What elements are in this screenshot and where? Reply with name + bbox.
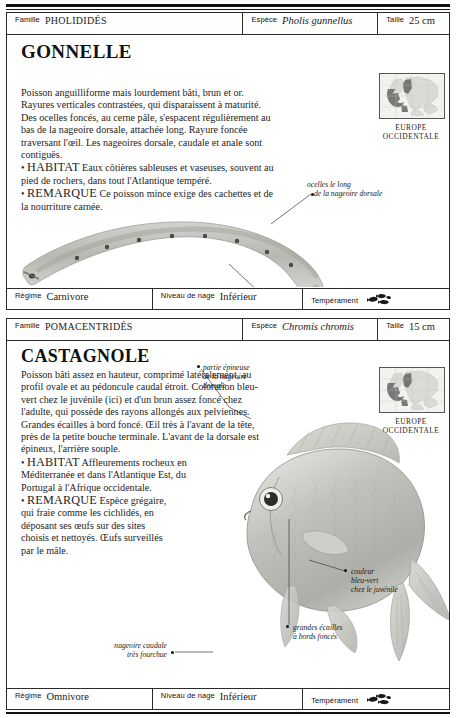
map-region-name: EUROPE OCCIDENTALE — [379, 417, 443, 435]
regime-label: Régime — [15, 691, 41, 700]
callout-line1: grandes écailles — [293, 623, 343, 632]
niveau-de-nage-label: Niveau de nage — [161, 291, 215, 300]
map-region-name: EUROPE OCCIDENTALE — [379, 123, 443, 141]
temperament-label: Tempérament — [311, 696, 358, 705]
species-entry-gonnelle: Famille PHOLIDIDÉS Espèce Pholis gunnell… — [6, 12, 450, 310]
entry-body-gonnelle: GONNELLE Poisson anguilliforme mais lour… — [7, 35, 449, 287]
callout-line2: bleu-vert — [351, 576, 398, 585]
espece-field: Espèce Chromis chromis — [243, 319, 378, 340]
description-text: Poisson anguilliforme mais lourdement bâ… — [21, 87, 279, 161]
callout-ocelles: ocelles le long de la nageoire dorsale — [307, 180, 382, 198]
regime-value: Omnivore — [46, 691, 89, 702]
famille-label: Famille — [15, 15, 40, 24]
callout-line2: de la nageoire dorsale — [314, 189, 382, 198]
map-europe-icon — [380, 74, 444, 118]
callout-couleur-juvenile: couleur bleu-vert chez le juvénile — [351, 567, 398, 595]
callout-dot-caudale-fourchue — [171, 651, 174, 654]
map-region-line1: EUROPE — [379, 417, 443, 426]
espece-field: Espèce Pholis gunnellus — [243, 13, 378, 34]
taille-label: Taille — [386, 321, 404, 330]
entry-header-castagnole: Famille POMACENTRIDÉS Espèce Chromis chr… — [7, 319, 449, 341]
temperament-field: Tempérament — [303, 289, 449, 309]
map-region-line2: OCCIDENTALE — [379, 132, 443, 141]
niveau-de-nage-field: Niveau de nage Inférieur — [153, 689, 303, 709]
taille-field: Taille 25 cm — [378, 13, 449, 34]
page-title-gonnelle: GONNELLE — [21, 41, 449, 63]
page-top-rule-thick — [6, 4, 450, 7]
famille-label: Famille — [15, 321, 40, 330]
taille-field: Taille 15 cm — [378, 319, 449, 340]
entry-footer-castagnole: Régime Omnivore Niveau de nage Inférieur… — [7, 688, 449, 709]
callout-caudale-fourchue: nageoire caudale très fourchue — [77, 641, 167, 659]
entry-footer-gonnelle: Régime Carnivore Niveau de nage Inférieu… — [7, 288, 449, 309]
espece-label: Espèce — [251, 321, 277, 330]
map-frame — [379, 73, 445, 119]
map-frame — [379, 367, 445, 413]
famille-field: Famille PHOLIDIDÉS — [7, 13, 243, 34]
callout-leader-ocelles — [269, 191, 315, 227]
habitat-paragraph: • HABITAT Affleurements rocheux en Médit… — [21, 456, 189, 494]
famille-value: PHOLIDIDÉS — [45, 15, 107, 26]
espece-value: Pholis gunnellus — [282, 15, 352, 26]
remarque-paragraph: • REMARQUE Ce poisson mince exige des ca… — [21, 187, 279, 213]
description-block-gonnelle: Poisson anguilliforme mais lourdement bâ… — [21, 87, 279, 213]
callout-line2: très fourchue — [77, 650, 167, 659]
taille-label: Taille — [386, 15, 404, 24]
callout-leader-couleur-juvenile — [307, 556, 347, 574]
distribution-map-castagnole: EUROPE OCCIDENTALE — [379, 367, 443, 435]
school-of-fish-icon — [366, 292, 392, 309]
habitat-label: HABITAT — [27, 455, 80, 469]
habitat-paragraph: • HABITAT Eaux côtières sableuses et vas… — [21, 161, 279, 187]
espece-label: Espèce — [251, 15, 277, 24]
callout-leader-rayure-oeil — [37, 283, 97, 287]
niveau-de-nage-field: Niveau de nage Inférieur — [153, 289, 303, 309]
temperament-label: Tempérament — [311, 296, 358, 305]
callout-line3: chez le juvénile — [351, 585, 398, 594]
regime-field: Régime Carnivore — [7, 289, 153, 309]
niveau-de-nage-value: Inférieur — [220, 691, 257, 702]
famille-value: POMACENTRIDÉS — [45, 321, 133, 332]
temperament-field: Tempérament — [303, 689, 449, 709]
callout-line1: nageoire caudale — [77, 641, 167, 650]
niveau-de-nage-label: Niveau de nage — [161, 691, 215, 700]
species-entry-castagnole: Famille POMACENTRIDÉS Espèce Chromis chr… — [6, 318, 450, 710]
field-guide-page: Famille PHOLIDIDÉS Espèce Pholis gunnell… — [0, 0, 456, 718]
entry-header-gonnelle: Famille PHOLIDIDÉS Espèce Pholis gunnell… — [7, 13, 449, 35]
entry-body-castagnole: CASTAGNOLE Poisson bâti assez en hauteur… — [7, 341, 449, 687]
distribution-map-gonnelle: EUROPE OCCIDENTALE — [379, 73, 443, 141]
callout-leader-grandes-ecailles — [287, 519, 291, 627]
taille-value: 15 cm — [409, 321, 435, 332]
regime-field: Régime Omnivore — [7, 689, 153, 709]
callout-leader-partie-epineuse — [199, 367, 255, 423]
map-region-line1: EUROPE — [379, 123, 443, 132]
callout-line1: ocelles le long — [307, 180, 382, 189]
niveau-de-nage-value: Inférieur — [220, 291, 257, 302]
callout-line1: couleur — [351, 567, 398, 576]
school-of-fish-icon — [366, 692, 392, 709]
remarque-label: REMARQUE — [27, 493, 97, 507]
callout-grandes-ecailles: grandes écailles à bords foncés — [293, 623, 343, 641]
callout-leader-caudale-fourchue — [175, 647, 215, 659]
remarque-paragraph: • REMARQUE Espèce grégaire, qui fraie co… — [21, 494, 173, 557]
page-top-rule-thin — [6, 9, 450, 10]
habitat-label: HABITAT — [27, 160, 80, 174]
map-europe-icon — [380, 368, 444, 412]
callout-line2: à bords foncés — [293, 632, 343, 641]
regime-value: Carnivore — [46, 291, 88, 302]
famille-field: Famille POMACENTRIDÉS — [7, 319, 243, 340]
map-region-line2: OCCIDENTALE — [379, 426, 443, 435]
remarque-label: REMARQUE — [27, 186, 97, 200]
callout-leader-teintes-adulte — [225, 261, 265, 287]
taille-value: 25 cm — [409, 15, 435, 26]
regime-label: Régime — [15, 291, 41, 300]
espece-value: Chromis chromis — [282, 321, 354, 332]
page-bottom-rule — [6, 712, 450, 714]
